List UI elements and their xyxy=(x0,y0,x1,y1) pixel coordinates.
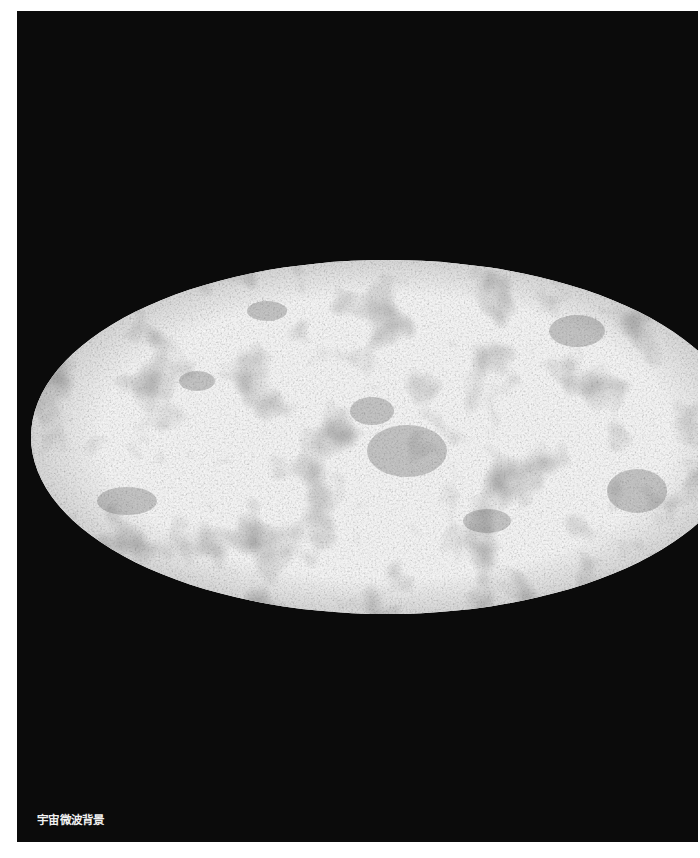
image-frame: 宇宙微波背景 xyxy=(17,11,698,842)
figure-caption: 宇宙微波背景 xyxy=(37,811,105,827)
cmb-sky-map xyxy=(17,11,698,842)
